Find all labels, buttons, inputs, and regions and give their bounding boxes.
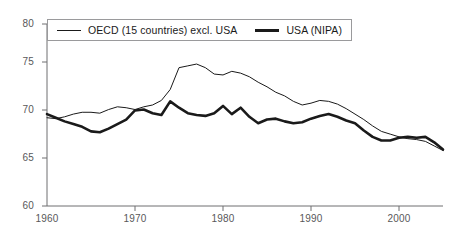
legend-label-usa: USA (NIPA) [286, 24, 342, 36]
legend-label-oecd: OECD (15 countries) excl. USA [88, 24, 237, 36]
x-axis-label-1980: 1980 [203, 213, 243, 224]
x-axis-ticks [135, 206, 399, 211]
legend-line-thin-icon [57, 30, 81, 31]
y-axis-label-70: 70 [8, 104, 34, 115]
x-axis-label-1990: 1990 [291, 213, 331, 224]
chart-legend: OECD (15 countries) excl. USA USA (NIPA) [47, 19, 352, 41]
x-axis-label-1970: 1970 [115, 213, 155, 224]
data-series-group [47, 64, 443, 150]
line-chart: 80 75 70 65 60 1960 1970 1980 1990 2000 … [0, 0, 460, 233]
y-axis-label-75: 75 [8, 56, 34, 67]
series-line-oecd [47, 64, 443, 150]
axis-lines [47, 24, 443, 206]
y-axis-label-80: 80 [8, 18, 34, 29]
x-axis-label-2000: 2000 [379, 213, 419, 224]
y-axis-label-65: 65 [8, 152, 34, 163]
series-line-usa [47, 101, 443, 149]
x-axis-label-1960: 1960 [27, 213, 67, 224]
legend-entry-oecd: OECD (15 countries) excl. USA [57, 24, 237, 36]
y-axis-label-60: 60 [8, 200, 34, 211]
legend-line-thick-icon [255, 29, 279, 32]
legend-entry-usa: USA (NIPA) [255, 24, 342, 36]
